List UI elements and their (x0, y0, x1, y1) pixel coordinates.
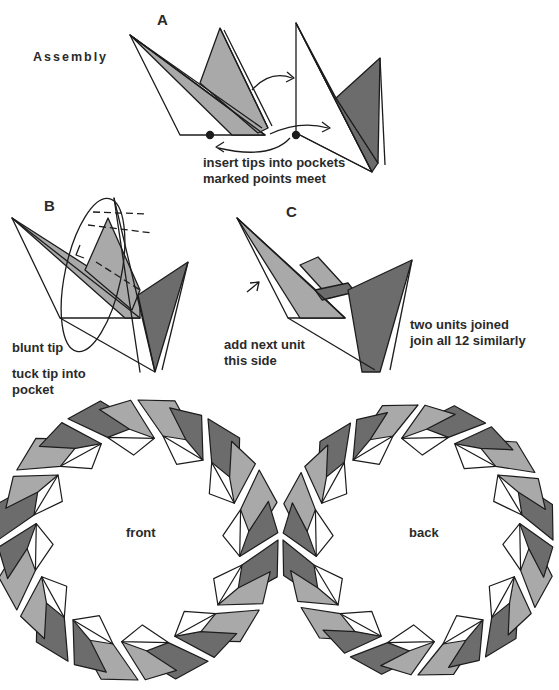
wreath-unit (402, 437, 449, 455)
wreath-unit (122, 625, 169, 643)
wreath-unit (223, 510, 241, 557)
back-wreath (283, 405, 553, 675)
wreath-unit (503, 524, 521, 571)
wreath-unit (108, 437, 155, 455)
wreath-canvas (0, 0, 559, 690)
wreath-unit (35, 524, 53, 571)
front-wreath (0, 400, 278, 680)
back-label: back (409, 525, 439, 540)
wreath-unit (388, 625, 435, 643)
wreath-unit (315, 510, 333, 557)
front-label: front (126, 525, 156, 540)
